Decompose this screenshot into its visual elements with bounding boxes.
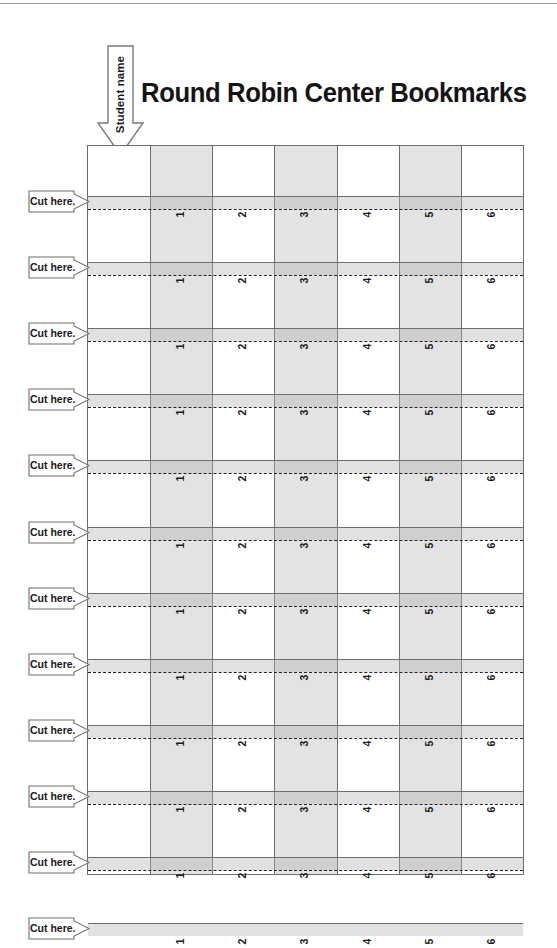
cut-row-strip: 123456 (88, 460, 523, 473)
cut-here-callout: Cut here. (28, 653, 90, 676)
grid-column-bookmark-1 (150, 146, 212, 874)
cut-row-strip: 123456 (88, 196, 523, 209)
cut-dashed-line (88, 473, 523, 474)
cut-here-callout: Cut here. (28, 388, 90, 411)
cut-dashed-line (88, 738, 523, 739)
bookmark-number-3: 3 (274, 924, 336, 937)
cut-here-callout: Cut here. (28, 851, 90, 874)
cut-here-label: Cut here. (30, 587, 74, 610)
cut-here-label: Cut here. (30, 454, 74, 477)
cut-here-label: Cut here. (30, 322, 74, 345)
cut-dashed-line (88, 606, 523, 607)
grid-column-bookmark-6 (461, 146, 523, 874)
cut-row-strip: 123456 (88, 725, 523, 738)
cut-here-callout: Cut here. (28, 190, 90, 213)
cut-dashed-line (88, 870, 523, 871)
page-title: Round Robin Center Bookmarks (141, 76, 527, 110)
bookmark-number-4: 4 (337, 924, 399, 937)
cut-here-label: Cut here. (30, 521, 74, 544)
grid-column-divider (212, 146, 213, 874)
grid-column-bookmark-3 (274, 146, 336, 874)
cut-here-callout: Cut here. (28, 719, 90, 742)
page-top-rule (0, 3, 557, 4)
grid-column-bookmark-2 (212, 146, 274, 874)
bookmark-number-2: 2 (212, 924, 274, 937)
cut-here-label: Cut here. (30, 785, 74, 808)
cut-row-strip: 123456 (88, 527, 523, 540)
cut-row-strip: 123456 (88, 857, 523, 870)
cut-dashed-line (88, 672, 523, 673)
bookmark-grid: 1234561234561234561234561234561234561234… (87, 145, 524, 875)
cut-dashed-line (88, 407, 523, 408)
cut-row-strip: 123456 (88, 791, 523, 804)
grid-column-divider (399, 146, 400, 874)
cut-row-strip: 123456 (88, 593, 523, 606)
cut-here-label: Cut here. (30, 190, 74, 213)
cut-here-label: Cut here. (30, 653, 74, 676)
cut-here-label: Cut here. (30, 388, 74, 411)
student-name-callout: Student name (97, 45, 144, 156)
cut-row-strip: 123456 (88, 394, 523, 407)
cut-here-label: Cut here. (30, 256, 74, 279)
cut-here-callout: Cut here. (28, 322, 90, 345)
student-name-label: Student name (110, 47, 131, 142)
grid-column-divider (461, 146, 462, 874)
cut-row-strip: 123456 (88, 923, 523, 936)
bookmark-number-5: 5 (399, 924, 461, 937)
cut-dashed-line (88, 209, 523, 210)
cut-here-callout: Cut here. (28, 785, 90, 808)
cut-here-callout: Cut here. (28, 521, 90, 544)
grid-column-divider (274, 146, 275, 874)
cut-here-callout: Cut here. (28, 917, 90, 940)
grid-column-bookmark-5 (399, 146, 461, 874)
cut-dashed-line (88, 275, 523, 276)
cut-here-label: Cut here. (30, 719, 74, 742)
cut-row-strip: 123456 (88, 659, 523, 672)
grid-column-divider (150, 146, 151, 874)
cut-here-label: Cut here. (30, 851, 74, 874)
grid-column-bookmark-4 (337, 146, 399, 874)
cut-here-callout: Cut here. (28, 454, 90, 477)
cut-dashed-line (88, 804, 523, 805)
grid-column-student-name (88, 146, 150, 874)
cut-row-strip: 123456 (88, 328, 523, 341)
bookmark-number-text: 6 (485, 935, 547, 948)
cut-dashed-line (88, 540, 523, 541)
cut-dashed-line (88, 341, 523, 342)
bookmark-number-1: 1 (150, 924, 212, 937)
grid-column-divider (337, 146, 338, 874)
cut-here-label: Cut here. (30, 917, 74, 940)
cut-row-strip: 123456 (88, 262, 523, 275)
cut-here-callout: Cut here. (28, 256, 90, 279)
cut-here-callout: Cut here. (28, 587, 90, 610)
bookmark-number-6: 6 (461, 924, 523, 937)
